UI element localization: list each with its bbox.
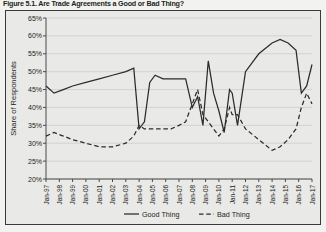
legend-label-bad-thing: Bad Thing xyxy=(217,210,250,219)
y-axis-tick-label: 20% xyxy=(28,176,42,183)
x-axis-tick-label: Jan-08 xyxy=(189,185,196,205)
x-axis-tick-label: Jan-09 xyxy=(202,185,209,205)
x-axis-tick-label: Jan-11 xyxy=(229,185,236,205)
x-axis-tick-label: Jan-15 xyxy=(282,185,289,205)
x-axis-tick-label: Jan-99 xyxy=(69,185,76,205)
series-line-bad-thing xyxy=(46,90,312,151)
y-axis-tick-label: 55% xyxy=(28,50,42,57)
y-axis-tick-label: 40% xyxy=(28,104,42,111)
y-axis-title: Share of Respondents xyxy=(9,61,18,136)
x-axis-tick-label: Jan-01 xyxy=(96,185,103,205)
x-axis-tick-label: Jan-10 xyxy=(215,185,222,205)
x-axis-tick-label: Jan-12 xyxy=(242,185,249,205)
x-axis-tick-label: Jan-14 xyxy=(269,185,276,205)
y-axis-tick-label: 60% xyxy=(28,32,42,39)
y-axis-tick-label: 50% xyxy=(28,68,42,75)
x-axis-tick-label: Jan-04 xyxy=(136,185,143,205)
y-axis-tick-label: 65% xyxy=(28,15,42,22)
y-axis-tick-label: 35% xyxy=(28,122,42,129)
line-chart: 20%25%30%35%40%45%50%55%60%65%Share of R… xyxy=(6,11,319,223)
y-axis-tick-label: 45% xyxy=(28,86,42,93)
y-axis-tick-label: 30% xyxy=(28,140,42,147)
x-axis-tick-label: Jan-06 xyxy=(162,185,169,205)
figure-title: Figure 5.1. Are Trade Agreements a Good … xyxy=(3,0,184,8)
series-line-good-thing xyxy=(46,39,312,132)
x-axis-tick-label: Jan-98 xyxy=(56,185,63,205)
x-axis-tick-label: Jan-02 xyxy=(109,185,116,205)
x-axis-tick-label: Jan-13 xyxy=(255,185,262,205)
x-axis-tick-label: Jan-03 xyxy=(122,185,129,205)
x-axis-tick-label: Jan-17 xyxy=(309,185,316,205)
x-axis-tick-label: Jan-07 xyxy=(176,185,183,205)
x-axis-tick-label: Jan-05 xyxy=(149,185,156,205)
chart-plot-area: 20%25%30%35%40%45%50%55%60%65%Share of R… xyxy=(6,11,320,224)
y-axis-tick-label: 25% xyxy=(28,158,42,165)
x-axis-tick-label: Jan-00 xyxy=(82,185,89,205)
chart-frame: 20%25%30%35%40%45%50%55%60%65%Share of R… xyxy=(5,10,321,225)
x-axis-tick-label: Jan-97 xyxy=(43,185,50,205)
legend-label-good-thing: Good Thing xyxy=(142,210,179,219)
x-axis-tick-label: Jan-16 xyxy=(295,185,302,205)
